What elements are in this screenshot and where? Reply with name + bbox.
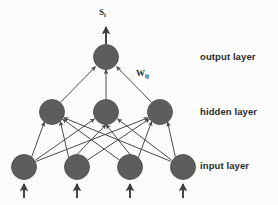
weight-label: Wij [136,68,149,78]
input-layer-nodes [12,155,196,180]
edge-in3-hid1 [63,119,120,160]
neural-network-diagram: output layer hidden layer input layer Si… [0,0,278,205]
weight-subscript: ij [145,72,149,79]
node-hidden-3[interactable] [148,100,173,125]
edge-in2-hid1 [60,121,68,157]
edge-in1-hid1 [32,122,45,157]
node-input-3[interactable] [118,155,143,180]
edge-hid1-out1 [60,67,95,103]
node-hidden-2[interactable] [94,100,119,125]
weight-symbol: W [136,68,145,78]
node-input-4[interactable] [171,155,196,180]
node-input-1[interactable] [12,155,37,180]
edge-in4-hid3 [168,122,176,157]
input-signal-arrows [24,184,183,198]
network-graph [0,0,278,205]
input-layer-label: input layer [200,160,249,171]
node-input-2[interactable] [65,155,90,180]
node-output-1[interactable] [94,45,119,70]
output-layer-label: output layer [200,51,256,62]
output-signal-subscript: i [104,11,106,18]
hidden-layer-nodes [40,100,173,125]
edge-in4-hid2 [117,119,171,160]
output-signal-label: Si [99,7,106,17]
hidden-layer-label: hidden layer [200,106,257,117]
node-hidden-1[interactable] [40,100,65,125]
output-layer-nodes [94,45,119,70]
